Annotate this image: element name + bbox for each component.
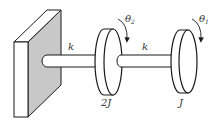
disk-1-inertia-label: J (177, 97, 184, 108)
shaft-2-stiffness-label: k (142, 41, 148, 52)
shaft-2 (117, 55, 172, 67)
theta2-label: θ2 (125, 13, 135, 25)
torsional-system-diagram: k k θ2 θ1 2J J (0, 0, 220, 120)
shaft-1-stiffness-label: k (68, 41, 74, 52)
wall-front-face (14, 42, 28, 117)
shaft-1 (42, 55, 96, 67)
disk-1 (171, 30, 197, 93)
theta1-label: θ1 (199, 13, 209, 25)
disk-2-inertia-label: 2J (100, 97, 112, 108)
